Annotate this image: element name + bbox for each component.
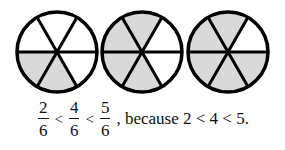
numerator: 2 [38, 99, 49, 119]
explanation-text: , because 2 < 4 < 5. [116, 109, 248, 129]
less-than-operator: < [55, 111, 63, 128]
fraction-circle-5-of-6 [188, 12, 268, 92]
denominator: 6 [101, 119, 110, 139]
denominator: 6 [39, 119, 48, 139]
numerator: 5 [100, 99, 111, 119]
fraction-four-sixths: 4 6 [69, 99, 80, 139]
fraction-five-sixths: 5 6 [100, 99, 111, 139]
fraction-circle-2-of-6 [17, 12, 97, 92]
fraction-inequality: 2 6 < 4 6 < 5 6 , because 2 < 4 < 5. [36, 94, 249, 144]
fraction-two-sixths: 2 6 [38, 99, 49, 139]
less-than-operator: < [85, 111, 93, 128]
fraction-circles [0, 0, 285, 100]
fraction-circle-4-of-6 [102, 12, 182, 92]
numerator: 4 [69, 99, 80, 119]
denominator: 6 [70, 119, 79, 139]
